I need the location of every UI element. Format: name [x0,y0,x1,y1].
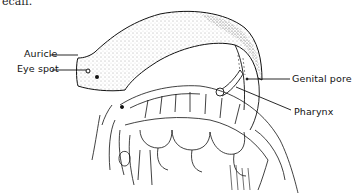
eye-spot-2 [95,75,99,79]
label-genital-pore: Genital pore [292,73,352,84]
diagram-drawing [0,0,358,193]
label-auricle: Auricle [24,48,57,59]
crayfish-body [92,86,298,193]
worm-body [77,11,263,130]
anatomical-diagram: ecaff. [0,0,358,193]
label-eye-spot: Eye spot [17,63,59,74]
label-pharynx: Pharynx [294,106,333,117]
